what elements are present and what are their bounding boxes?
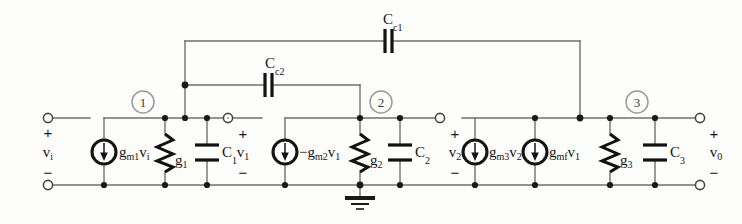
src-gm3v2-symbol <box>463 140 487 164</box>
v1-port-terminals <box>223 113 232 122</box>
g1-label: g1 <box>175 153 188 168</box>
input-plus-sign: + <box>44 125 53 140</box>
c2-label: C2 <box>415 145 430 160</box>
src-gm1vi-symbol <box>92 140 116 164</box>
output-terminal-top[interactable] <box>695 113 704 122</box>
c3-label: C3 <box>670 145 685 160</box>
g2-label: g2 <box>370 153 383 168</box>
src-gm2v1-symbol <box>273 140 297 164</box>
node-marker-3: 3 <box>634 96 641 109</box>
output-terminal-bottom[interactable] <box>695 180 704 189</box>
output-minus-sign: − <box>710 165 719 180</box>
v1-plus-sign: + <box>239 126 248 141</box>
src-gm2v1-label: −gm2v1 <box>299 145 340 160</box>
node-marker-2: 2 <box>378 96 385 109</box>
input-minus-sign: − <box>44 165 53 180</box>
c1-capacitor <box>195 145 219 160</box>
g3-label: g3 <box>620 153 633 168</box>
input-terminal-bottom[interactable] <box>43 180 52 189</box>
v2-voltage-label: v2 <box>449 145 462 160</box>
node-marker-circles <box>132 91 648 113</box>
v1-voltage-label: v1 <box>237 145 250 160</box>
src-gm1vi-label: gm1vi <box>119 145 150 160</box>
input-terminal-top[interactable] <box>43 113 52 122</box>
src-gm3v2-label: gm3v2 <box>489 145 522 160</box>
schematic-canvas <box>0 0 742 224</box>
c2-capacitor <box>388 145 412 160</box>
src-gmfv1-symbol <box>523 140 547 164</box>
cc1-label: Cc1 <box>383 12 402 27</box>
g3-conductance <box>602 134 618 172</box>
v2-port-terminals <box>435 113 444 122</box>
ground-symbol <box>345 198 375 209</box>
cc1-capacitor <box>385 29 392 53</box>
v2-terminal-top[interactable] <box>435 113 444 122</box>
g1-conductance <box>157 134 173 172</box>
output-voltage-label: v0 <box>710 145 723 160</box>
c1-label: C1 <box>222 145 237 160</box>
circuit-diagram: + vi − 1 gm1vi g1 C1 + v1 − Cc2 −gm2v1 g… <box>0 0 742 224</box>
output-plus-sign: + <box>710 126 719 141</box>
input-voltage-label: vi <box>43 145 53 160</box>
v2-minus-sign: − <box>451 165 460 180</box>
v2-plus-sign: + <box>451 126 460 141</box>
stage1-branches <box>104 41 207 185</box>
cc2-label: Cc2 <box>265 56 284 71</box>
src-gmfv1-label: gmfv1 <box>549 145 580 160</box>
output-port-terminals <box>695 113 704 189</box>
g2-conductance <box>352 134 368 172</box>
v1-minus-sign: − <box>239 165 248 180</box>
cc2-capacitor <box>265 73 272 97</box>
c3-capacitor <box>643 145 667 160</box>
node-marker-1: 1 <box>140 96 147 109</box>
